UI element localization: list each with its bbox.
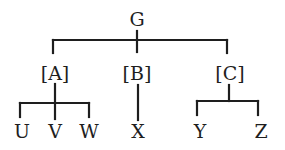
node-w: W (79, 120, 99, 142)
tree-diagram: G [A] [B] [C] U (0, 0, 285, 150)
a-connectors (20, 84, 89, 119)
node-u: U (14, 120, 30, 142)
root-connectors (53, 31, 227, 53)
node-x: X (131, 120, 145, 142)
node-b: [B] (123, 62, 152, 84)
node-a: [A] (41, 62, 70, 84)
node-v: V (47, 120, 62, 142)
node-y: Y (193, 120, 207, 142)
node-z: Z (254, 120, 267, 142)
c-connectors (197, 85, 258, 115)
node-root: G (129, 8, 144, 30)
node-c: [C] (215, 62, 244, 84)
